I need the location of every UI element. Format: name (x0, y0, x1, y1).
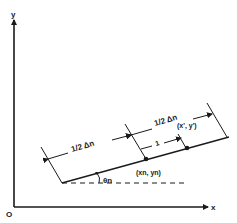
dimension-right-label: 1/2 Δn (153, 113, 178, 128)
diagram-canvas: y x O θn 1/2 Δn 1/2 Δn 1 (xn, yn) (x', y… (0, 0, 237, 223)
point-target (185, 146, 190, 151)
point-center (144, 157, 149, 162)
dimension-left-label: 1/2 Δn (70, 139, 95, 154)
point-center-label: (xn, yn) (136, 169, 161, 177)
dimension-right: 1/2 Δn (131, 113, 212, 135)
origin-label: O (6, 210, 12, 219)
extension-line-center (125, 124, 146, 159)
point-target-label: (x', y') (177, 122, 197, 130)
angle-arc (97, 173, 100, 183)
angle-label: θn (103, 176, 112, 185)
y-axis-label: y (11, 10, 16, 19)
dimension-offset-label: 1 (154, 139, 160, 147)
x-axis-label: x (211, 203, 216, 212)
extension-line-target (178, 134, 186, 148)
dimension-offset: 1 (141, 138, 181, 149)
extension-line-left (41, 147, 62, 183)
extension-line-right (207, 103, 227, 137)
dimension-left: 1/2 Δn (48, 135, 131, 159)
